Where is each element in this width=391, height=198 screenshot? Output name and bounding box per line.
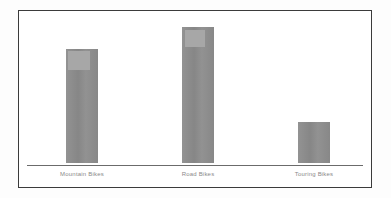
bar-highlight-mountain-bikes bbox=[68, 51, 90, 70]
category-axis-line bbox=[27, 165, 363, 166]
bar-mountain-bikes[interactable] bbox=[66, 49, 98, 163]
bar-touring-bikes[interactable] bbox=[298, 122, 330, 163]
bar-road-bikes[interactable] bbox=[182, 27, 214, 163]
chart-frame: Mountain Bikes Road Bikes Touring Bikes bbox=[18, 10, 372, 188]
x-axis-tick-label-mountain-bikes: Mountain Bikes bbox=[32, 170, 132, 179]
plot-area: Mountain Bikes Road Bikes Touring Bikes bbox=[19, 11, 371, 187]
x-axis-tick-label-touring-bikes: Touring Bikes bbox=[264, 170, 364, 179]
x-axis-tick-label-road-bikes: Road Bikes bbox=[148, 170, 248, 179]
figure-root: Mountain Bikes Road Bikes Touring Bikes bbox=[0, 0, 391, 198]
bar-highlight-road-bikes bbox=[185, 30, 205, 47]
